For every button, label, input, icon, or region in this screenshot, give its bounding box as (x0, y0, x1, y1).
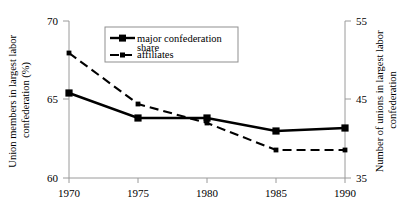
legend-swatch-affiliates-marker (120, 53, 125, 58)
x-tick-label-1985: 1985 (265, 187, 288, 199)
legend-label-affiliates: affiliates (137, 49, 174, 60)
series-major-point-1985 (272, 127, 279, 134)
left-tick-label-70: 70 (47, 15, 59, 27)
series-major-point-1975 (134, 114, 141, 121)
right-tick-label-55: 55 (356, 15, 368, 27)
right-axis-title-line2: confederation (387, 70, 398, 128)
left-axis-title: Union members in largest labor confedera… (7, 32, 32, 167)
left-axis-title-line1: Union members in largest labor (7, 34, 18, 167)
right-tick-label-45: 45 (356, 93, 368, 105)
x-tick-label-1990: 1990 (334, 187, 357, 199)
series-major-point-1970 (65, 89, 72, 96)
series-major-point-1990 (341, 124, 348, 131)
series-affiliates-line (69, 53, 345, 150)
legend-swatch-major-marker (119, 35, 126, 42)
x-tick-label-1980: 1980 (196, 187, 219, 199)
x-tick-label-1975: 1975 (127, 187, 150, 199)
series-major-point-1980 (203, 114, 210, 121)
right-axis-title: Number of unions in largest labor confed… (374, 28, 398, 172)
line-chart: 70 65 60 55 45 35 1970 1975 1980 1985 19… (0, 0, 410, 220)
chart-figure: 70 65 60 55 45 35 1970 1975 1980 1985 19… (0, 0, 410, 220)
left-axis-title-line2: confederation (%) (20, 61, 32, 138)
right-tick-label-35: 35 (356, 172, 368, 184)
left-tick-label-65: 65 (47, 93, 59, 105)
left-tick-label-60: 60 (47, 172, 59, 184)
x-tick-label-1970: 1970 (58, 187, 81, 199)
series-affiliates-point-1985 (274, 148, 279, 153)
right-axis-title-line1: Number of unions in largest labor (374, 30, 385, 172)
series-affiliates-point-1970 (67, 51, 72, 56)
chart-legend: major confederation share affiliates (105, 27, 238, 62)
series-affiliates-point-1975 (136, 102, 141, 107)
series-affiliates-point-1990 (343, 148, 348, 153)
